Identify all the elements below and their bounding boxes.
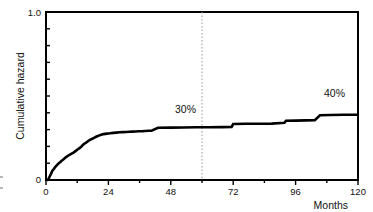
x-tick-label-96: 96 <box>290 186 301 197</box>
x-tick-label-48: 48 <box>166 186 177 197</box>
y-axis-title: Cumulative hazard <box>14 52 26 140</box>
figure-container: 1.0 0 0 24 48 72 96 120 Cumulative hazar… <box>0 0 373 212</box>
annotation-40-percent: 40% <box>324 87 345 99</box>
x-axis-title: Months <box>314 199 348 211</box>
x-tick-label-0: 0 <box>43 186 48 197</box>
annotation-30-percent: 30% <box>175 103 196 115</box>
x-tick-label-72: 72 <box>228 186 239 197</box>
y-tick-label-top: 1.0 <box>28 7 41 18</box>
edge-artifact-mark-lower <box>0 187 3 189</box>
x-tick-label-120: 120 <box>350 186 366 197</box>
x-tick-label-24: 24 <box>103 186 114 197</box>
edge-artifact-mark <box>0 176 3 178</box>
y-tick-label-bottom: 0 <box>36 174 41 185</box>
cumulative-hazard-chart: 1.0 0 0 24 48 72 96 120 Cumulative hazar… <box>0 0 373 212</box>
